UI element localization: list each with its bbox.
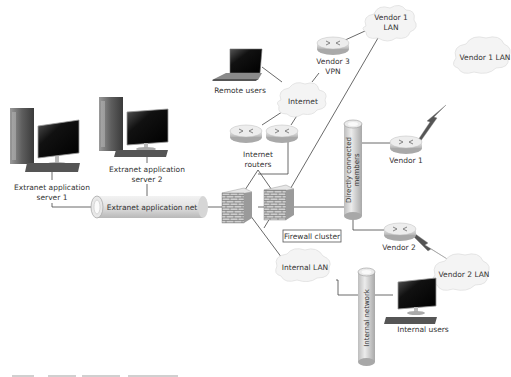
link-server1-pipe <box>52 203 97 207</box>
wan-link-vendor2-icon <box>413 233 452 262</box>
label-internet: Internet <box>288 97 318 106</box>
network-diagram: Vendor 1 LAN Internet Vendor 1 LAN Vendo… <box>0 0 511 377</box>
internal-network-cylinder: Internal network <box>358 268 375 366</box>
link-remote-internet <box>262 67 282 82</box>
firewall-1-icon <box>222 188 252 223</box>
label-dcm-2: members <box>353 153 361 187</box>
label-server1-1: Extranet application <box>14 183 90 192</box>
router-vendor2-icon <box>384 223 416 241</box>
desktop-internal-users-icon <box>384 278 437 324</box>
label-vendor3-2: VPN <box>325 67 340 76</box>
extranet-app-net-pipe: Extranet application net <box>91 196 208 218</box>
label-vendor1-lan-top-1: Vendor 1 <box>374 13 408 22</box>
cloud-internal-lan: Internal LAN <box>276 249 330 282</box>
label-internet-routers-1: Internet <box>243 150 273 159</box>
label-vendor1-lan-right: Vendor 1 LAN <box>460 53 511 62</box>
firewall-cluster-label-box: Firewall cluster <box>283 230 341 242</box>
label-vendor2-lan: Vendor 2 LAN <box>439 270 490 279</box>
links <box>52 31 393 295</box>
label-remote-users: Remote users <box>214 86 266 95</box>
router-vendor1-icon <box>390 136 422 154</box>
cloud-vendor1-lan-top: Vendor 1 LAN <box>363 5 416 41</box>
link-internallan-internalnet <box>336 280 360 295</box>
label-server1-2: server 1 <box>37 193 68 202</box>
label-server2-2: server 2 <box>132 175 163 184</box>
cloud-vendor1-lan-right: Vendor 1 LAN <box>453 37 510 73</box>
router-internet-1-icon <box>230 125 262 143</box>
label-dcm-1: Directly connected <box>345 137 353 203</box>
label-internal-lan: Internal LAN <box>282 263 328 272</box>
label-extranet-app-net: Extranet application net <box>107 203 198 212</box>
label-vendor2: Vendor 2 <box>382 243 416 252</box>
label-internal-network: Internal network <box>363 288 371 347</box>
label-firewall-cluster: Firewall cluster <box>284 232 341 241</box>
firewall-2-icon <box>264 185 294 220</box>
router-vendor3-vpn-icon <box>317 37 349 55</box>
laptop-remote-users-icon <box>212 49 262 81</box>
directly-connected-members-cylinder: Directly connected members <box>344 120 362 220</box>
link-fw1-internallan <box>250 215 282 258</box>
cloud-vendor2-lan: Vendor 2 LAN <box>432 254 489 290</box>
label-vendor3-1: Vendor 3 <box>316 57 350 66</box>
label-server2-1: Extranet application <box>109 165 185 174</box>
wan-link-vendor1-icon <box>418 105 446 142</box>
label-vendor1-lan-top-2: LAN <box>383 23 398 32</box>
label-internal-users: Internal users <box>397 325 449 334</box>
desktop-server-1-icon <box>10 108 80 172</box>
desktop-server-2-icon <box>99 97 168 157</box>
router-internet-2-icon <box>266 125 298 143</box>
label-internet-routers-2: routers <box>245 160 272 169</box>
link-vpn-internet <box>312 73 319 82</box>
label-vendor1: Vendor 1 <box>389 156 423 165</box>
cloud-internet: Internet <box>277 83 326 117</box>
